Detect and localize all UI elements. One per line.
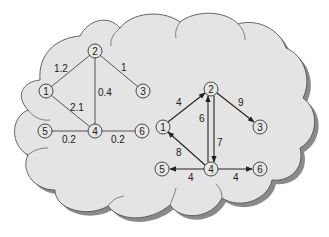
cloud-shape bbox=[15, 13, 315, 218]
svg-text:6: 6 bbox=[257, 164, 263, 175]
graph-diagram: 1.2 1 0.4 2.1 0.2 0.2 1 2 3 4 5 6 4 9 6 … bbox=[0, 0, 329, 237]
weight-arc-4-5: 4 bbox=[188, 172, 194, 183]
svg-text:4: 4 bbox=[208, 164, 214, 175]
svg-text:5: 5 bbox=[159, 164, 165, 175]
svg-text:2: 2 bbox=[208, 84, 214, 95]
dnode-5: 5 bbox=[155, 162, 169, 176]
weight-arc-2-3: 9 bbox=[238, 97, 244, 108]
dnode-2: 2 bbox=[204, 82, 218, 96]
weight-arc-1-2: 4 bbox=[176, 97, 182, 108]
weight-arc-4-6: 4 bbox=[233, 172, 239, 183]
dnode-3: 3 bbox=[253, 120, 267, 134]
svg-text:3: 3 bbox=[140, 86, 146, 97]
dnode-1: 1 bbox=[156, 120, 170, 134]
svg-text:2: 2 bbox=[92, 46, 98, 57]
weight-4-6: 0.2 bbox=[111, 134, 125, 145]
weight-5-4: 0.2 bbox=[62, 134, 76, 145]
svg-text:1: 1 bbox=[43, 86, 49, 97]
node-6: 6 bbox=[135, 124, 149, 138]
svg-text:4: 4 bbox=[92, 126, 98, 137]
weight-1-4: 2.1 bbox=[70, 102, 84, 113]
svg-text:3: 3 bbox=[257, 122, 263, 133]
node-5: 5 bbox=[38, 124, 52, 138]
dnode-6: 6 bbox=[253, 162, 267, 176]
svg-text:1: 1 bbox=[160, 122, 166, 133]
svg-text:6: 6 bbox=[139, 126, 145, 137]
node-3: 3 bbox=[136, 84, 150, 98]
weight-1-2: 1.2 bbox=[54, 63, 68, 74]
node-2: 2 bbox=[88, 44, 102, 58]
node-1: 1 bbox=[39, 84, 53, 98]
weight-arc-4-1: 8 bbox=[176, 147, 182, 158]
dnode-4: 4 bbox=[204, 162, 218, 176]
weight-2-3: 1 bbox=[121, 62, 127, 73]
svg-text:5: 5 bbox=[42, 126, 48, 137]
weight-arc-4-2: 6 bbox=[199, 113, 205, 124]
node-4: 4 bbox=[88, 124, 102, 138]
weight-2-4: 0.4 bbox=[98, 87, 112, 98]
weight-arc-2-4: 7 bbox=[217, 137, 223, 148]
